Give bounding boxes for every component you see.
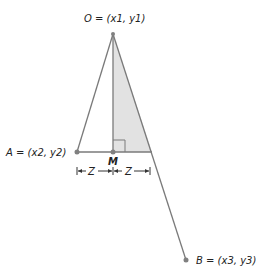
point-o	[111, 32, 115, 36]
segment-oa	[77, 34, 113, 152]
point-a	[75, 150, 80, 155]
label-o: O = (x1, y1)	[84, 13, 145, 24]
diagram-canvas: O = (x1, y1) A = (x2, y2) M Z Z B = (x3,…	[0, 0, 274, 279]
label-z-right: Z	[124, 166, 133, 177]
label-b: B = (x3, y3)	[196, 255, 256, 266]
geometry-diagram: O = (x1, y1) A = (x2, y2) M Z Z B = (x3,…	[0, 0, 274, 279]
label-m: M	[108, 156, 118, 167]
label-a: A = (x2, y2)	[5, 147, 66, 158]
point-b	[184, 258, 189, 263]
point-m	[111, 150, 116, 155]
label-z-left: Z	[87, 166, 96, 177]
